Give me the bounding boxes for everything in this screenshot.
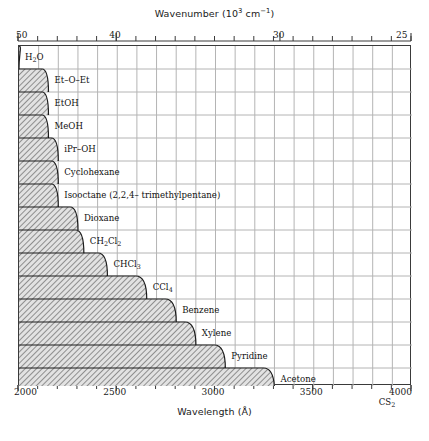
band-Pyridine <box>19 345 225 368</box>
band-CHCl3 <box>19 253 107 276</box>
band-label-Et-O-Et: Et–O–Et <box>54 76 89 85</box>
band-Cyclohexane <box>19 161 58 184</box>
band-label-Acetone: Acetone <box>280 375 315 384</box>
band-label-EtOH: EtOH <box>54 99 78 108</box>
band-label-Xylene: Xylene <box>202 329 231 338</box>
band-label-H2O: H2O <box>25 53 44 62</box>
band-EtOH <box>19 92 48 115</box>
band-H2O <box>19 46 20 69</box>
band-CCl4 <box>19 276 147 299</box>
band-label-CS2: CS2 <box>379 398 396 407</box>
band-Xylene <box>19 322 196 345</box>
band-label-Cyclohexane: Cyclohexane <box>64 168 119 177</box>
bottom-axis-title: Wavelength (Å) <box>0 406 429 417</box>
bottom-tick-3000: 3000 <box>202 387 225 397</box>
band-Acetone <box>19 368 274 386</box>
band-label-MeOH: MeOH <box>54 122 82 131</box>
bottom-tick-2000: 2000 <box>14 387 37 397</box>
band-label-iPr-OH: iPr–OH <box>64 145 95 154</box>
band-label-CH2Cl2: CH2Cl2 <box>90 237 122 246</box>
top-tick-50: 50 <box>16 30 27 40</box>
band-label-CHCl3: CHCl3 <box>113 260 140 269</box>
band-Benzene <box>19 299 176 322</box>
band-label-Isooctane: Isooctane (2,2,4– trimethylpentane) <box>64 191 220 200</box>
band-Dioxane <box>19 207 78 230</box>
bottom-tick-3500: 3500 <box>300 387 323 397</box>
bottom-tick-4000: 4000 <box>389 387 412 397</box>
band-Et-O-Et <box>19 69 48 92</box>
band-label-Benzene: Benzene <box>182 306 219 315</box>
band-iPr-OH <box>19 138 58 161</box>
band-CH2Cl2 <box>19 230 84 253</box>
top-tick-25: 25 <box>396 30 407 40</box>
top-tick-30: 30 <box>273 30 284 40</box>
band-Isooctane <box>19 184 58 207</box>
top-tick-40: 40 <box>109 30 120 40</box>
band-label-Dioxane: Dioxane <box>84 214 119 223</box>
bottom-tick-2500: 2500 <box>103 387 126 397</box>
top-axis-title: Wavenumber (103 cm−1) <box>0 8 429 19</box>
band-label-CCl4: CCl4 <box>153 283 173 292</box>
band-label-Pyridine: Pyridine <box>231 352 267 361</box>
plot-area: H2OEt–O–EtEtOHMeOHiPr–OHCyclohexaneIsooc… <box>18 45 411 385</box>
band-MeOH <box>19 115 48 138</box>
uv-cutoff-chart: Wavenumber (103 cm−1) Wavelength (Å) 504… <box>0 0 429 441</box>
